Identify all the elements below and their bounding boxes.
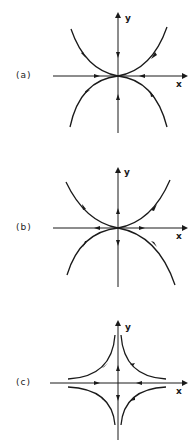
trajectory-lower-right <box>118 76 167 127</box>
y-axis-label-c: y <box>125 322 131 332</box>
trajectory-upper-left <box>68 335 115 379</box>
trajectory-lower-right <box>121 387 166 425</box>
x-axis-label-a: x <box>176 79 182 89</box>
trajectory-upper-right <box>121 335 166 379</box>
panel-c: (c) y x <box>0 295 191 447</box>
y-axis-label-b: y <box>124 167 130 177</box>
panel-label-a: (a) <box>16 70 32 80</box>
panel-label-c: (c) <box>16 377 31 387</box>
trajectory-lower-left <box>68 387 115 425</box>
y-axis-label-a: y <box>125 13 131 23</box>
trajectory-lower-left <box>67 228 118 275</box>
trajectory-upper-left <box>71 29 118 76</box>
trajectory-lower-left <box>70 76 118 127</box>
trajectory-lower-right <box>118 228 175 285</box>
phase-portrait-c <box>0 295 191 447</box>
panel-label-b: (b) <box>16 222 32 232</box>
panel-a: (a) y x <box>0 0 191 150</box>
x-axis-label-c: x <box>176 386 182 396</box>
trajectory-upper-left <box>66 182 118 228</box>
trajectory-upper-right <box>118 180 170 228</box>
panel-b: (b) y x <box>0 150 191 300</box>
trajectory-upper-right <box>118 27 167 76</box>
x-axis-label-b: x <box>176 231 182 241</box>
